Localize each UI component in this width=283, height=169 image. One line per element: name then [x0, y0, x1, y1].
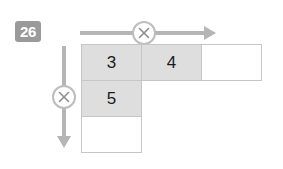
grid-cell-r2c2: [201, 116, 262, 153]
worksheet-figure: 26 3 4 5: [0, 0, 283, 169]
grid-cell-r0c2[interactable]: [201, 44, 262, 81]
grid-cell-r1c2: [201, 80, 262, 117]
grid-row: [82, 117, 262, 153]
horizontal-multiply-circle-icon: [132, 21, 156, 45]
grid-row: 5: [82, 81, 262, 117]
arrow-down-icon: [57, 136, 71, 148]
grid-cell-r0c1[interactable]: 4: [141, 44, 202, 81]
multiply-glyph: [54, 87, 74, 107]
grid-cell-r2c0[interactable]: [81, 116, 142, 153]
grid-cell-r2c1: [141, 116, 202, 153]
grid-row: 3 4: [82, 45, 262, 81]
grid-cell-r1c1: [141, 80, 202, 117]
problem-number-badge: 26: [15, 21, 41, 42]
multiplication-grid: 3 4 5: [82, 45, 262, 153]
grid-cell-r1c0[interactable]: 5: [81, 80, 142, 117]
grid-cell-r0c0[interactable]: 3: [81, 44, 142, 81]
multiply-glyph: [134, 23, 154, 43]
arrow-right-icon: [204, 26, 216, 40]
vertical-multiply-circle-icon: [52, 85, 76, 109]
